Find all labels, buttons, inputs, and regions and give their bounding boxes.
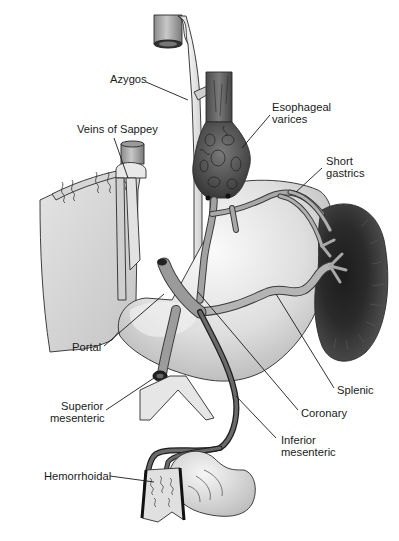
label-superior-mesenteric-line2: mesenteric [50,412,105,424]
label-esophageal-varices: Esophageal [272,101,331,113]
portal-collateral-diagram: Azygos Esophageal varices Veins of Sappe… [0,0,399,541]
label-esophageal-varices-line2: varices [272,113,308,125]
label-azygos: Azygos [110,73,147,85]
label-splenic: Splenic [337,384,374,396]
spleen [315,204,388,361]
esophagus [206,72,232,122]
label-short-gastrics: Short [326,155,354,167]
label-inferior-mesenteric-line2: mesenteric [281,446,336,458]
label-inferior-mesenteric: Inferior [281,434,316,446]
label-portal: Portal [72,341,101,353]
label-superior-mesenteric: Superior [61,400,104,412]
aorta [140,376,214,420]
label-hemorrhoidal: Hemorrhoidal [44,470,111,482]
label-short-gastrics-line2: gastrics [326,167,365,179]
rectum [142,468,184,522]
label-veins-of-sappey: Veins of Sappey [77,123,158,135]
label-coronary: Coronary [301,407,347,419]
